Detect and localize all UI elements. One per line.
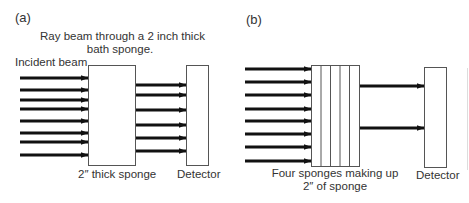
panel-b-sponge-label-line2: 2″ of sponge <box>265 180 405 192</box>
panel-b-sponge-stack <box>312 66 360 167</box>
panel-a-incident-arrows <box>20 78 88 155</box>
panel-a-sponge-box <box>89 66 136 166</box>
panel-a-title-line1: Ray beam through a 2 inch thick <box>40 30 200 42</box>
panel-b-transmitted-arrows <box>360 86 424 128</box>
panel-b-label: (b) <box>246 12 262 27</box>
panel-a-label: (a) <box>15 10 31 25</box>
incident-beam-label: Incident beam <box>15 56 87 68</box>
panel-a-title-line2: bath sponge. <box>40 43 200 55</box>
panel-b-detector-box <box>425 68 447 168</box>
panel-b-incident-arrows <box>245 69 311 161</box>
panel-a-sponge-label: 2″ thick sponge <box>78 168 156 180</box>
panel-a-detector-box <box>187 66 209 166</box>
panel-a-detector-label: Detector <box>177 168 220 180</box>
panel-b-sponge-label-line1: Four sponges making up <box>265 167 405 179</box>
panel-b-detector-label: Detector <box>416 169 459 181</box>
panel-a-transmitted-arrows <box>136 85 186 151</box>
